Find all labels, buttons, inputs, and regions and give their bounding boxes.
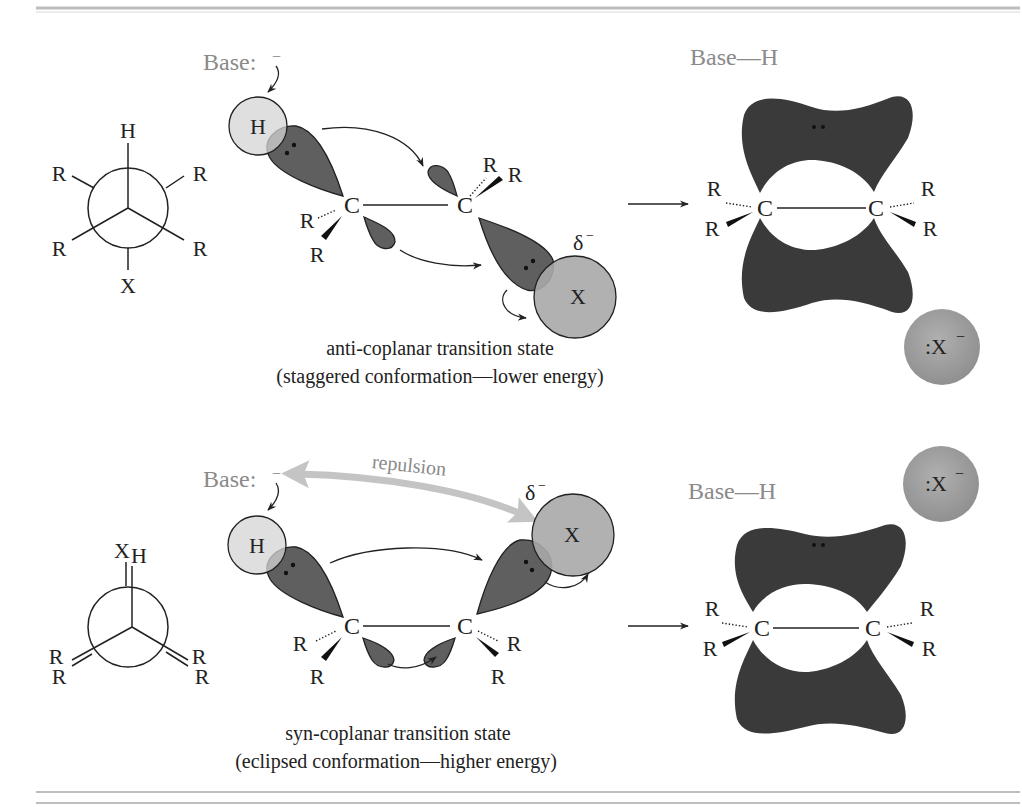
- svg-text:Base—H: Base—H: [688, 478, 776, 504]
- curved-arrow-icon: [330, 548, 482, 563]
- svg-text:R: R: [705, 216, 720, 241]
- newman-r: R: [193, 161, 208, 186]
- syn-caption-line2: (eclipsed conformation—higher energy): [235, 750, 557, 773]
- syn-caption-line1: syn-coplanar transition state: [285, 722, 511, 745]
- e2-elimination-diagram: H R R R R X Base: − H X δ − C C R: [0, 0, 1022, 807]
- pi-cloud-lower-icon: [735, 640, 906, 734]
- newman-x: X: [120, 273, 136, 298]
- curved-arrow-icon: [268, 66, 278, 92]
- delta-minus: δ: [573, 230, 583, 255]
- svg-text:−: −: [956, 328, 965, 345]
- svg-text:R: R: [491, 664, 506, 689]
- svg-text:R: R: [300, 208, 315, 233]
- newman-h: H: [131, 543, 147, 568]
- repulsion-arrow-icon: [298, 474, 528, 517]
- newman-r: R: [52, 161, 67, 186]
- svg-text:−: −: [272, 465, 281, 482]
- orbital-lobe-icon: [428, 166, 457, 196]
- anti-coplanar-transition-state: Base: − H X δ − C C R R R R: [203, 48, 616, 338]
- svg-text:C: C: [868, 195, 884, 221]
- curved-arrow-icon: [322, 127, 423, 166]
- newman-x: X: [114, 538, 130, 563]
- orbital-lobe-icon: [363, 638, 394, 667]
- svg-text:R: R: [310, 664, 325, 689]
- svg-text:C: C: [754, 615, 770, 641]
- svg-text:−: −: [538, 478, 546, 493]
- svg-text:C: C: [757, 195, 773, 221]
- svg-text:R: R: [921, 176, 936, 201]
- svg-text:C: C: [865, 615, 881, 641]
- base-label: Base:: [203, 49, 256, 75]
- newman-projection-eclipsed: X H R R R R: [49, 538, 210, 689]
- svg-text:R: R: [508, 162, 523, 187]
- svg-text:δ: δ: [525, 480, 535, 505]
- newman-projection-staggered: H R R R R X: [52, 118, 208, 298]
- anti-caption-line2: (staggered conformation—lower energy): [276, 365, 603, 388]
- svg-text:−: −: [586, 228, 594, 243]
- svg-text:C: C: [457, 613, 473, 639]
- svg-text:R: R: [293, 631, 308, 656]
- repulsion-label: repulsion: [371, 450, 447, 481]
- orbital-lobe-icon: [424, 638, 455, 667]
- newman-r: R: [52, 236, 67, 261]
- syn-coplanar-transition-state: Base: − repulsion H X δ − C C R R R R: [203, 450, 614, 689]
- svg-text:R: R: [703, 636, 718, 661]
- svg-text:R: R: [52, 664, 67, 689]
- curved-arrow-icon: [400, 250, 481, 266]
- svg-text:C: C: [344, 613, 360, 639]
- svg-text:R: R: [707, 176, 722, 201]
- newman-h: H: [120, 118, 136, 143]
- newman-r: R: [193, 236, 208, 261]
- carbon-1: C: [344, 192, 360, 218]
- svg-text::X: :X: [925, 471, 947, 496]
- curved-arrow-icon: [268, 483, 278, 510]
- svg-text:R: R: [483, 152, 498, 177]
- alkene-product-bottom: Base—H :X − C C R R R R: [688, 446, 979, 734]
- pi-cloud-lower-icon: [742, 218, 913, 313]
- svg-text:R: R: [705, 596, 720, 621]
- svg-text:R: R: [310, 242, 325, 267]
- svg-text:−: −: [955, 465, 964, 482]
- alkene-product-top: Base—H C C R R R R :X −: [690, 44, 980, 385]
- bottom-rule: [36, 792, 1020, 803]
- base-label: Base:: [203, 466, 256, 492]
- base-charge: −: [272, 48, 281, 65]
- curved-arrow-icon: [503, 290, 526, 318]
- svg-text:R: R: [195, 664, 210, 689]
- svg-text:X: X: [564, 522, 580, 547]
- h-atom: H: [250, 114, 266, 139]
- svg-text:R: R: [507, 631, 522, 656]
- svg-text:R: R: [920, 596, 935, 621]
- top-rule: [36, 8, 1020, 12]
- svg-text:H: H: [249, 533, 265, 558]
- anti-caption-line1: anti-coplanar transition state: [326, 337, 554, 360]
- svg-text:R: R: [922, 636, 937, 661]
- orbital-lobe-icon: [364, 217, 395, 249]
- pi-cloud-upper-icon: [742, 96, 913, 193]
- base-h-label: Base—H: [690, 44, 778, 70]
- halide-ion-label: :X: [925, 334, 947, 359]
- svg-text:R: R: [923, 216, 938, 241]
- pi-cloud-upper-icon: [735, 524, 906, 612]
- x-atom: X: [570, 284, 586, 309]
